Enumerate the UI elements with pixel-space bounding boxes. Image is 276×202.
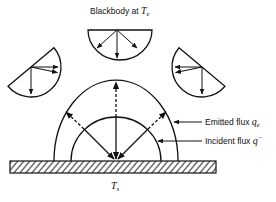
blackbody-hemisphere-top [88,30,152,60]
emitted-flux-label: Emitted flux qe [174,116,260,129]
svg-text:Incident flux q−: Incident flux q− [205,134,263,146]
blackbody-hemisphere-left [8,48,73,110]
blackbody-hemisphere-right [160,48,225,110]
surface-plate [10,161,216,173]
svg-text:Emitted flux qe: Emitted flux qe [205,116,260,129]
incident-flux-label: Incident flux q− [158,134,263,146]
blackbody-title: Blackbody at Te [90,5,150,18]
radiation-flux-diagram: Blackbody at Te [0,0,276,202]
surface-temperature-label: Ts [111,180,120,193]
